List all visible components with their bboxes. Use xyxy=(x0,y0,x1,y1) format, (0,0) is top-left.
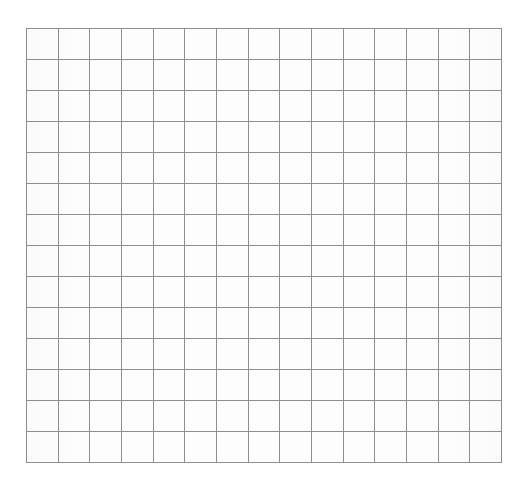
grid-cell[interactable] xyxy=(439,277,471,308)
grid-cell[interactable] xyxy=(470,308,502,339)
grid-cell[interactable] xyxy=(122,246,154,277)
grid-cell[interactable] xyxy=(312,401,344,432)
grid-cell[interactable] xyxy=(344,60,376,91)
grid-cell[interactable] xyxy=(27,401,59,432)
grid-cell[interactable] xyxy=(470,215,502,246)
grid-cell[interactable] xyxy=(439,29,471,60)
grid-cell[interactable] xyxy=(90,339,122,370)
grid-cell[interactable] xyxy=(344,370,376,401)
grid-cell[interactable] xyxy=(185,432,217,463)
grid-cell[interactable] xyxy=(59,122,91,153)
grid-cell[interactable] xyxy=(185,246,217,277)
grid-cell[interactable] xyxy=(439,60,471,91)
grid-cell[interactable] xyxy=(27,308,59,339)
grid-cell[interactable] xyxy=(249,122,281,153)
grid-cell[interactable] xyxy=(217,184,249,215)
grid-cell[interactable] xyxy=(90,277,122,308)
grid-cell[interactable] xyxy=(439,122,471,153)
grid-cell[interactable] xyxy=(312,122,344,153)
grid-cell[interactable] xyxy=(122,153,154,184)
grid-cell[interactable] xyxy=(59,277,91,308)
grid-cell[interactable] xyxy=(375,122,407,153)
grid-cell[interactable] xyxy=(90,308,122,339)
grid-cell[interactable] xyxy=(344,308,376,339)
grid-cell[interactable] xyxy=(344,401,376,432)
grid-cell[interactable] xyxy=(312,29,344,60)
grid-cell[interactable] xyxy=(375,432,407,463)
grid-cell[interactable] xyxy=(249,308,281,339)
grid-cell[interactable] xyxy=(312,339,344,370)
grid-cell[interactable] xyxy=(344,432,376,463)
grid-cell[interactable] xyxy=(344,122,376,153)
grid-cell[interactable] xyxy=(90,215,122,246)
grid-cell[interactable] xyxy=(185,401,217,432)
grid-cell[interactable] xyxy=(470,370,502,401)
grid-cell[interactable] xyxy=(249,215,281,246)
grid-cell[interactable] xyxy=(185,153,217,184)
grid-cell[interactable] xyxy=(27,277,59,308)
grid-cell[interactable] xyxy=(217,370,249,401)
grid-cell[interactable] xyxy=(280,153,312,184)
grid-cell[interactable] xyxy=(59,339,91,370)
grid-cell[interactable] xyxy=(280,432,312,463)
grid-cell[interactable] xyxy=(59,401,91,432)
grid-cell[interactable] xyxy=(185,308,217,339)
grid-cell[interactable] xyxy=(27,122,59,153)
grid-cell[interactable] xyxy=(280,308,312,339)
grid-cell[interactable] xyxy=(59,29,91,60)
grid-cell[interactable] xyxy=(375,370,407,401)
grid-cell[interactable] xyxy=(154,246,186,277)
grid-cell[interactable] xyxy=(439,215,471,246)
grid-cell[interactable] xyxy=(470,432,502,463)
grid-cell[interactable] xyxy=(59,184,91,215)
grid-cell[interactable] xyxy=(344,153,376,184)
grid-cell[interactable] xyxy=(90,246,122,277)
grid-cell[interactable] xyxy=(407,432,439,463)
grid-cell[interactable] xyxy=(312,277,344,308)
grid-cell[interactable] xyxy=(280,91,312,122)
grid-cell[interactable] xyxy=(154,29,186,60)
grid-cell[interactable] xyxy=(122,308,154,339)
grid-cell[interactable] xyxy=(470,184,502,215)
grid-cell[interactable] xyxy=(439,184,471,215)
grid-cell[interactable] xyxy=(280,246,312,277)
grid-cell[interactable] xyxy=(122,339,154,370)
grid-cell[interactable] xyxy=(407,122,439,153)
grid-cell[interactable] xyxy=(154,277,186,308)
grid-cell[interactable] xyxy=(122,60,154,91)
grid-cell[interactable] xyxy=(154,184,186,215)
grid-cell[interactable] xyxy=(59,370,91,401)
grid-cell[interactable] xyxy=(375,215,407,246)
grid-cell[interactable] xyxy=(375,308,407,339)
grid-cell[interactable] xyxy=(312,215,344,246)
grid-cell[interactable] xyxy=(407,308,439,339)
grid-cell[interactable] xyxy=(185,277,217,308)
grid-cell[interactable] xyxy=(59,91,91,122)
grid-cell[interactable] xyxy=(185,122,217,153)
grid-cell[interactable] xyxy=(375,60,407,91)
grid-cell[interactable] xyxy=(217,153,249,184)
grid-cell[interactable] xyxy=(217,60,249,91)
grid-cell[interactable] xyxy=(375,401,407,432)
grid-cell[interactable] xyxy=(375,153,407,184)
grid-cell[interactable] xyxy=(470,246,502,277)
grid-cell[interactable] xyxy=(470,401,502,432)
grid-cell[interactable] xyxy=(59,215,91,246)
grid-cell[interactable] xyxy=(375,246,407,277)
grid-cell[interactable] xyxy=(90,60,122,91)
grid-cell[interactable] xyxy=(122,184,154,215)
grid-cell[interactable] xyxy=(27,215,59,246)
grid-cell[interactable] xyxy=(59,60,91,91)
grid-cell[interactable] xyxy=(249,184,281,215)
grid-cell[interactable] xyxy=(344,184,376,215)
grid-cell[interactable] xyxy=(217,246,249,277)
grid-cell[interactable] xyxy=(154,60,186,91)
grid-cell[interactable] xyxy=(154,215,186,246)
grid-cell[interactable] xyxy=(344,215,376,246)
grid-cell[interactable] xyxy=(122,370,154,401)
grid-cell[interactable] xyxy=(439,339,471,370)
grid-cell[interactable] xyxy=(407,60,439,91)
grid-cell[interactable] xyxy=(470,91,502,122)
grid-cell[interactable] xyxy=(470,277,502,308)
grid-cell[interactable] xyxy=(312,60,344,91)
